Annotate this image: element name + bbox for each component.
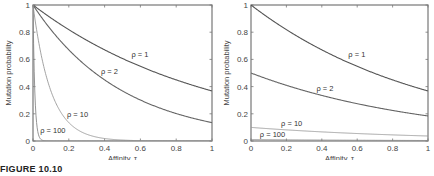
x-tick-label: 0	[249, 144, 254, 153]
y-tick-label: 0.2	[237, 110, 249, 119]
y-axis-label: Mutation probability	[4, 40, 13, 105]
y-tick-label: 0	[26, 137, 31, 146]
y-tick-label: 0.8	[19, 28, 31, 37]
figure-caption: FIGURE 10.10	[0, 164, 63, 174]
y-tick-label: 0.2	[19, 110, 31, 119]
plot-frame	[33, 5, 212, 141]
x-tick-label: 1	[210, 144, 215, 153]
y-tick-label: 0.6	[237, 55, 249, 64]
curve-rho-1	[251, 5, 428, 91]
curve-rho-10	[33, 5, 212, 141]
right-chart-panel: 00.20.40.60.8100.20.40.60.81Affinity, τM…	[218, 0, 434, 160]
curve-rho-2	[251, 73, 428, 116]
curve-label-rho-2: ρ = 2	[101, 67, 118, 76]
left-chart-panel: 00.20.40.60.8100.20.40.60.81Affinity, τM…	[0, 0, 217, 160]
x-tick-label: 0.2	[281, 144, 293, 153]
left-chart: 00.20.40.60.8100.20.40.60.81Affinity, τM…	[0, 0, 217, 160]
y-tick-label: 1	[244, 1, 249, 10]
right-chart: 00.20.40.60.8100.20.40.60.81Affinity, τM…	[218, 0, 434, 160]
y-tick-label: 0.8	[237, 28, 249, 37]
curve-label-rho-100: ρ = 100	[260, 130, 285, 139]
x-tick-label: 0	[31, 144, 36, 153]
x-axis-label: Affinity, τ	[325, 154, 354, 160]
x-tick-label: 0.2	[63, 144, 75, 153]
x-tick-label: 0.8	[171, 144, 183, 153]
y-tick-label: 0	[244, 137, 249, 146]
curve-label-rho-10: ρ = 10	[67, 110, 88, 119]
curve-rho-100	[251, 140, 428, 141]
y-tick-label: 0.4	[237, 83, 249, 92]
x-axis-label: Affinity, τ	[108, 154, 137, 160]
x-tick-label: 0.6	[135, 144, 147, 153]
curve-label-rho-1: ρ = 1	[131, 50, 148, 59]
curve-label-rho-10: ρ = 10	[281, 119, 302, 128]
y-tick-label: 1	[26, 1, 31, 10]
curve-rho-1	[33, 5, 212, 91]
curve-label-rho-2: ρ = 2	[316, 84, 333, 93]
curve-label-rho-100: ρ = 100	[40, 126, 65, 135]
x-tick-label: 0.8	[387, 144, 399, 153]
y-tick-label: 0.6	[19, 55, 31, 64]
curve-label-rho-1: ρ = 1	[348, 50, 365, 59]
y-tick-label: 0.4	[19, 83, 31, 92]
curve-rho-2	[33, 5, 212, 123]
x-tick-label: 0.6	[352, 144, 364, 153]
x-tick-label: 0.4	[316, 144, 328, 153]
curve-rho-100	[33, 5, 212, 141]
y-axis-label: Mutation probability	[222, 40, 231, 105]
x-tick-label: 1	[426, 144, 431, 153]
plot-frame	[251, 5, 428, 141]
x-tick-label: 0.4	[99, 144, 111, 153]
